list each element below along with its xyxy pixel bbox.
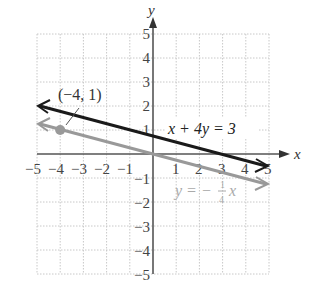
svg-text:−5: −5	[134, 267, 150, 283]
svg-text:y = −: y = −	[173, 182, 212, 200]
svg-text:5: 5	[143, 26, 151, 42]
svg-text:1: 1	[220, 179, 225, 190]
y-axis-label: y	[146, 2, 155, 18]
coordinate-plane: x y −5 −4 −3 −2 −1 1 2 3 4 5 5 4 3 2 1 −…	[0, 0, 317, 303]
x-axis-arrow-icon	[279, 150, 290, 158]
equation-label-black: x + 4y = 3	[167, 120, 236, 138]
svg-text:−4: −4	[134, 243, 150, 259]
svg-text:x: x	[228, 182, 236, 199]
x-axis-label: x	[293, 146, 301, 162]
svg-text:3: 3	[143, 74, 151, 90]
svg-text:1: 1	[172, 161, 180, 177]
svg-text:4: 4	[241, 161, 249, 177]
svg-text:−1: −1	[134, 171, 150, 187]
svg-text:−2: −2	[134, 195, 150, 211]
equation-label-gray: y = − 1 4 x	[173, 179, 236, 205]
svg-text:4: 4	[143, 50, 151, 66]
svg-text:2: 2	[143, 98, 151, 114]
svg-text:2: 2	[195, 161, 203, 177]
svg-text:−3: −3	[71, 161, 87, 177]
point-label: (−4, 1)	[58, 86, 102, 104]
svg-text:−2: −2	[94, 161, 110, 177]
svg-text:−1: −1	[117, 161, 133, 177]
y-axis-arrow-icon	[149, 17, 157, 28]
svg-text:−5: −5	[25, 161, 41, 177]
svg-text:4: 4	[219, 194, 224, 205]
y-axis	[149, 17, 157, 274]
svg-text:−3: −3	[134, 219, 150, 235]
svg-text:3: 3	[218, 161, 226, 177]
svg-text:−4: −4	[48, 161, 64, 177]
point-neg4-1	[55, 125, 65, 135]
